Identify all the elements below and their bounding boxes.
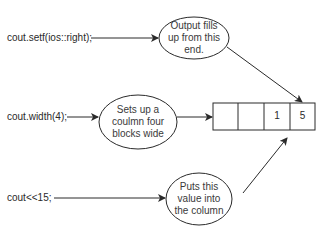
ellipse-text-output-fills: Output fills up from this end.	[159, 19, 229, 57]
ellipse-text-puts-value: Puts this value into the column	[166, 175, 232, 223]
arrow-output-fills-to-cell	[227, 47, 302, 102]
arrow-puts-value-to-cell	[243, 138, 287, 193]
column-cell-4: 5	[290, 110, 315, 122]
code-line-setf: cout.setf(ios::right);	[7, 32, 92, 44]
column-cell-3: 1	[264, 110, 290, 122]
code-line-width: cout.width(4);	[7, 111, 67, 123]
ellipse-text-sets-column: Sets up a coulmn four blocks wide	[99, 97, 177, 147]
code-line-insert: cout<<15;	[7, 192, 51, 204]
